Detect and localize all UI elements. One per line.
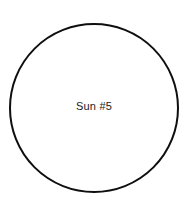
diagram-svg: Sun #5: [0, 0, 191, 221]
diagram-canvas: Sun #5: [0, 0, 191, 221]
sun-circle-label: Sun #5: [76, 100, 112, 112]
